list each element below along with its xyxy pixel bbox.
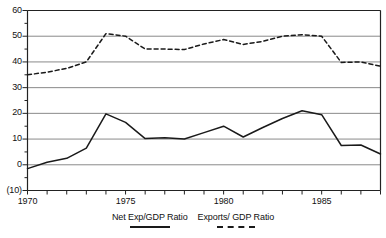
legend-item-net-exp-gdp-ratio: Net Exp/GDP Ratio [112, 212, 188, 228]
y-tick-label: 60 [0, 5, 22, 15]
axis-ticks [23, 11, 381, 195]
gridlines [28, 11, 381, 165]
legend-swatch-dashed-line [217, 226, 255, 228]
y-tick-label: (10) [0, 185, 22, 195]
x-tick-label: 1980 [204, 196, 244, 206]
chart-figure: (10)0102030405060 1970197519801985 Net E… [0, 0, 386, 238]
y-tick-label: 10 [0, 133, 22, 143]
y-tick-label: 0 [0, 159, 22, 169]
x-tick-label: 1985 [302, 196, 342, 206]
legend-swatch-solid-line [130, 226, 170, 228]
legend-item-exports-gdp-ratio: Exports/ GDP Ratio [198, 212, 275, 228]
y-tick-label: 40 [0, 56, 22, 66]
series-lines [28, 34, 381, 169]
legend-label: Exports/ GDP Ratio [198, 212, 275, 222]
plot-border [28, 11, 381, 191]
chart-legend: Net Exp/GDP Ratio Exports/ GDP Ratio [0, 212, 386, 228]
series-line-2 [28, 34, 381, 75]
x-tick-label: 1970 [8, 196, 48, 206]
legend-label: Net Exp/GDP Ratio [112, 212, 188, 222]
y-tick-label: 50 [0, 30, 22, 40]
series-line-1 [28, 111, 381, 169]
x-tick-label: 1975 [106, 196, 146, 206]
y-tick-label: 30 [0, 82, 22, 92]
y-tick-label: 20 [0, 107, 22, 117]
